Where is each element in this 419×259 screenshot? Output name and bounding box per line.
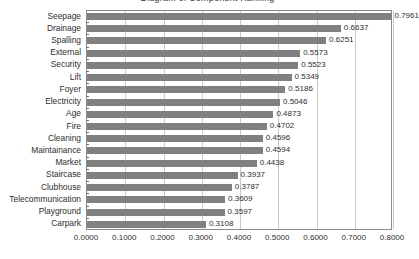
category-label: Lift [70, 72, 81, 83]
bar-value-label: 0.5573 [303, 47, 327, 58]
category-label: Seepage [47, 11, 81, 22]
category-tick [86, 22, 89, 23]
bar [87, 111, 273, 118]
bar-value-label: 0.6637 [344, 22, 368, 33]
category-label: Cleaning [48, 133, 81, 144]
bar-value-label: 0.4596 [266, 132, 290, 143]
bar [87, 172, 238, 179]
x-tick-label: 0.8000 [380, 232, 404, 244]
category-tick [86, 218, 89, 219]
category-tick [86, 59, 89, 60]
plot-area: 0.79610.66370.62510.55730.55230.53490.51… [86, 10, 392, 230]
x-tick-label: 0.5000 [265, 232, 289, 244]
bar [87, 221, 206, 228]
bar [87, 147, 263, 154]
bar-value-label: 0.4438 [260, 157, 284, 168]
bar [87, 13, 392, 20]
category-tick [86, 132, 89, 133]
bar-value-label: 0.5349 [295, 71, 319, 82]
chart-title: Diagram of Component Ranking [0, 0, 415, 3]
category-tick [86, 47, 89, 48]
x-tick-label: 0.0000 [74, 232, 98, 244]
bar-row: 0.3108 [87, 219, 391, 231]
bar-row: 0.4596 [87, 133, 391, 145]
category-tick [86, 206, 89, 207]
bar-value-label: 0.5046 [283, 96, 307, 107]
bar-row: 0.5349 [87, 72, 391, 84]
category-label: Electricity [45, 96, 81, 107]
bar-rows: 0.79610.66370.62510.55730.55230.53490.51… [87, 11, 391, 229]
bar-chart: SeepageDrainageSpallingExternalSecurityL… [0, 8, 415, 259]
bar [87, 160, 257, 167]
category-tick [86, 181, 89, 182]
bar-row: 0.6251 [87, 35, 391, 47]
bar-value-label: 0.3597 [228, 206, 252, 217]
bar-row: 0.3597 [87, 207, 391, 219]
bar [87, 62, 298, 69]
category-tick [86, 108, 89, 109]
chart-title-clipped: Diagram of Component Ranking [0, 0, 415, 8]
bar-row: 0.5573 [87, 48, 391, 60]
bar-value-label: 0.3609 [228, 193, 252, 204]
bar-value-label: 0.3108 [209, 218, 233, 229]
bar-row: 0.5186 [87, 84, 391, 96]
bar-value-label: 0.4594 [266, 144, 290, 155]
gridline [393, 11, 394, 229]
bar [87, 196, 225, 203]
x-tick-label: 0.6000 [303, 232, 327, 244]
bar-row: 0.4873 [87, 109, 391, 121]
bar [87, 50, 300, 57]
bar [87, 86, 285, 93]
category-tick [86, 120, 89, 121]
category-tick [86, 157, 89, 158]
category-label: Telecommunication [9, 194, 81, 205]
category-tick [86, 169, 89, 170]
bar [87, 74, 292, 81]
category-label: Security [51, 59, 81, 70]
x-tick-label: 0.3000 [189, 232, 213, 244]
bar [87, 37, 326, 44]
x-tick-label: 0.2000 [150, 232, 174, 244]
bar [87, 99, 280, 106]
x-tick-label: 0.1000 [112, 232, 136, 244]
x-axis-labels: 0.00000.10000.20000.30000.40000.50000.60… [0, 232, 415, 246]
bar-row: 0.4438 [87, 158, 391, 170]
bar-row: 0.4594 [87, 145, 391, 157]
category-label: Foyer [60, 84, 81, 95]
category-label: Market [55, 157, 81, 168]
bar [87, 25, 341, 32]
category-label: Spalling [51, 35, 81, 46]
category-label: Clubhouse [41, 182, 81, 193]
bar-row: 0.5523 [87, 60, 391, 72]
x-tick-label: 0.4000 [227, 232, 251, 244]
category-label: Age [66, 108, 81, 119]
category-label: Playground [39, 206, 81, 217]
bar-row: 0.5046 [87, 97, 391, 109]
category-label: External [50, 47, 81, 58]
bar-row: 0.4702 [87, 121, 391, 133]
category-axis-labels: SeepageDrainageSpallingExternalSecurityL… [0, 10, 84, 230]
category-tick [86, 34, 89, 35]
category-label: Drainage [47, 23, 81, 34]
bar-value-label: 0.3937 [241, 169, 265, 180]
category-label: Carpark [51, 218, 81, 229]
bar-value-label: 0.3787 [235, 181, 259, 192]
bar-value-label: 0.4873 [276, 108, 300, 119]
bar [87, 135, 263, 142]
category-tick [86, 96, 89, 97]
bar [87, 209, 225, 216]
category-label: Maintainance [31, 145, 81, 156]
category-tick [86, 83, 89, 84]
bar [87, 123, 267, 130]
bar-value-label: 0.7961 [395, 10, 419, 21]
bar-value-label: 0.6251 [329, 34, 353, 45]
bar-value-label: 0.4702 [270, 120, 294, 131]
bar-value-label: 0.5186 [288, 83, 312, 94]
bar-value-label: 0.5523 [301, 59, 325, 70]
bar [87, 184, 232, 191]
category-label: Staircase [46, 169, 81, 180]
category-label: Fire [67, 121, 81, 132]
x-tick-label: 0.7000 [342, 232, 366, 244]
category-tick [86, 71, 89, 72]
